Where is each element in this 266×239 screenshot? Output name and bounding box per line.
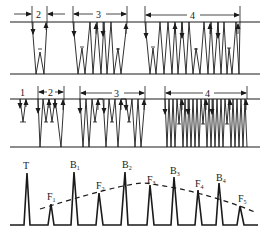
middle-zone-4-bracket: 4 (165, 86, 247, 99)
top-zone-2-wave (32, 22, 47, 74)
middle-zone-4-wave (165, 99, 247, 147)
peak-label-F1: F1 (47, 191, 56, 203)
middle-panel: 1 2 3 (10, 86, 260, 147)
middle-zone-2-bracket: 2 (38, 86, 64, 99)
peak-label-B2: B2 (122, 159, 132, 171)
middle-zone-2-wave (38, 99, 64, 147)
peak-label-F2: F2 (96, 180, 105, 192)
top-zone-2-bracket: 2 (14, 6, 65, 22)
bottom-panel-echo-trace: T F1 B1 F2 B2 F3 B3 F4 B4 F5 (10, 159, 258, 225)
middle-zone-1: 1 (20, 87, 26, 122)
peak-label-T: T (23, 160, 29, 171)
peak-label-B1: B1 (70, 159, 80, 171)
top-zone-3-bracket: 3 (73, 6, 127, 22)
top-panel: 2 3 (10, 6, 260, 74)
middle-zone-3-wave (80, 99, 145, 147)
peak-label-B3: B3 (170, 165, 180, 177)
top-zone-3-wave (73, 22, 127, 74)
echo-signal-diagram: 2 3 (0, 0, 266, 239)
middle-zone-2-label: 2 (48, 87, 53, 98)
peak-label-F5: F5 (238, 193, 247, 205)
middle-zone-3-bracket: 3 (80, 86, 145, 99)
top-zone-4-label: 4 (190, 10, 195, 21)
peak-label-F3: F3 (147, 174, 156, 186)
top-zone-4-bracket: 4 (145, 6, 240, 22)
middle-zone-4-label: 4 (205, 88, 210, 99)
middle-zone-1-label: 1 (20, 87, 25, 98)
middle-zone-3-label: 3 (114, 88, 119, 99)
top-zone-2-label: 2 (36, 9, 41, 20)
peak-label-B4: B4 (216, 172, 226, 184)
peak-label-F4: F4 (195, 178, 204, 190)
top-zone-3-label: 3 (96, 9, 101, 20)
top-zone-4-wave (145, 22, 240, 74)
